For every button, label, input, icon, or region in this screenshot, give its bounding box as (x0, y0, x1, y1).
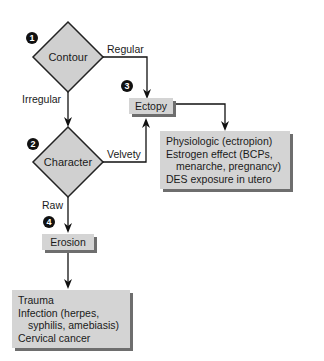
ectopy-cause-item: DES exposure in utero (166, 173, 284, 186)
erosion-cause-item: Cervical cancer (18, 332, 124, 345)
character-label: Character (33, 156, 103, 168)
irregular-label: Irregular (22, 93, 61, 105)
erosion-cause-item: Infection (herpes, (18, 307, 124, 320)
ectopy-cause-item: menarche, pregnancy) (166, 160, 284, 173)
ectopy-box: Ectopy (129, 98, 173, 114)
ectopy-cause-item: Physiologic (ectropion) (166, 135, 284, 148)
velvety-label: Velvety (107, 148, 141, 160)
step-4-badge: 4 (43, 216, 55, 228)
ectopy-cause-item: Estrogen effect (BCPs, (166, 148, 284, 161)
erosion-causes-box: Trauma Infection (herpes, syphilis, ameb… (12, 290, 130, 348)
regular-label: Regular (107, 43, 144, 55)
step-1-badge: 1 (26, 32, 38, 44)
ectopy-causes-arrow (176, 104, 225, 128)
erosion-box: Erosion (42, 234, 94, 250)
ectopy-causes-box: Physiologic (ectropion) Estrogen effect … (160, 131, 290, 189)
step-2-badge: 2 (27, 138, 39, 150)
step-3-badge: 3 (121, 80, 133, 92)
erosion-cause-item: syphilis, amebiasis) (18, 319, 124, 332)
raw-label: Raw (42, 199, 63, 211)
erosion-cause-item: Trauma (18, 294, 124, 307)
contour-label: Contour (33, 51, 103, 63)
